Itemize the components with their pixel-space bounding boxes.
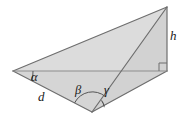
height-h-label: h	[170, 29, 177, 42]
side-d-label: d	[38, 90, 45, 103]
angle-alpha-label: α	[31, 71, 38, 84]
geometry-figure: α β γ d h	[0, 0, 183, 121]
angle-gamma-label: γ	[104, 84, 109, 97]
figure-canvas	[0, 0, 183, 121]
angle-beta-label: β	[75, 84, 81, 97]
